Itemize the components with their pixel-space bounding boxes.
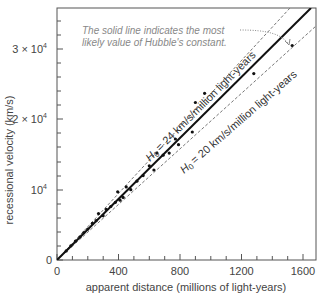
data-point	[177, 143, 180, 146]
x-tick-label-1200: 1200	[229, 265, 253, 277]
data-point	[82, 231, 85, 234]
data-point	[95, 219, 98, 222]
data-point	[91, 222, 94, 225]
hubble-chart: 0 104 2 × 104 3 × 104 0 400 800 1200 160…	[0, 0, 321, 296]
data-point	[122, 196, 125, 199]
data-point	[125, 185, 128, 188]
y-tick-label-10k: 104	[31, 183, 47, 196]
data-point	[65, 249, 68, 252]
x-tick-label-0: 0	[54, 265, 60, 277]
data-point	[191, 130, 194, 133]
data-point	[135, 180, 138, 183]
y-tick-label-0: 0	[46, 254, 52, 266]
data-point	[152, 168, 155, 171]
data-point	[252, 72, 255, 75]
data-point	[116, 190, 119, 193]
data-points	[65, 44, 294, 253]
data-point	[142, 174, 145, 177]
data-point	[109, 205, 112, 208]
data-point	[129, 188, 132, 191]
y-axis-title: recessional velocity (km/s)	[3, 96, 15, 225]
data-point	[168, 152, 171, 155]
x-ticks	[57, 254, 303, 260]
data-point	[291, 44, 294, 47]
annotation-arrow	[240, 30, 288, 43]
data-point	[105, 208, 108, 211]
data-point	[148, 164, 151, 167]
data-point	[74, 239, 77, 242]
x-axis-title: apparent distance (millions of light-yea…	[86, 281, 287, 293]
data-point	[114, 201, 117, 204]
lower-bound-line	[57, 26, 316, 260]
data-point	[86, 228, 89, 231]
y-ticks	[57, 21, 63, 260]
x-tick-label-400: 400	[109, 265, 127, 277]
y-tick-label-30k: 3 × 104	[12, 42, 47, 55]
x-tick-label-800: 800	[171, 265, 189, 277]
annotation-line-2: likely value of Hubble's constant.	[82, 37, 227, 48]
data-point	[162, 154, 165, 157]
data-point	[102, 214, 105, 217]
data-point	[118, 199, 121, 202]
data-point	[97, 212, 100, 215]
x-tick-label-1600: 1600	[291, 265, 315, 277]
y-tick-label-20k: 2 × 104	[12, 112, 47, 125]
data-point	[79, 235, 82, 238]
annotation-line-1: The solid line indicates the most	[82, 25, 226, 36]
data-point	[69, 244, 72, 247]
